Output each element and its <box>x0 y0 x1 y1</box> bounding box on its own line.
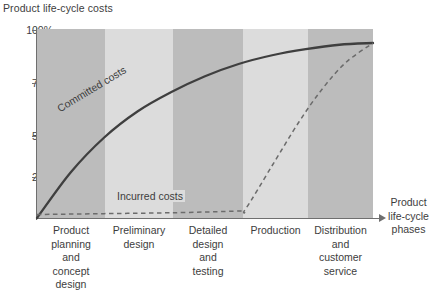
x-axis-line <box>36 218 381 219</box>
category-line: design <box>105 238 173 252</box>
category-line: Distribution <box>308 224 373 238</box>
incurred-costs-label: Incurred costs <box>115 190 185 202</box>
category-line: Preliminary <box>105 224 173 238</box>
x-axis-label-line-2: life-cycle <box>385 210 432 224</box>
category-label-detailed-design: Detailed design and testing <box>173 224 243 278</box>
y-axis-line <box>36 27 37 220</box>
category-line: testing <box>173 265 243 279</box>
category-label-product-planning: Product planning and concept design <box>37 224 105 292</box>
category-line: and <box>37 251 105 265</box>
category-line: Detailed <box>173 224 243 238</box>
plot-area <box>37 29 373 218</box>
category-line: and <box>308 238 373 252</box>
x-axis-label-line-3: phases <box>385 223 432 237</box>
category-label-distribution: Distribution and customer service <box>308 224 373 278</box>
category-line: customer <box>308 251 373 265</box>
category-line: design <box>173 238 243 252</box>
category-line: Product <box>37 224 105 238</box>
category-line: concept <box>37 265 105 279</box>
category-line: and <box>173 251 243 265</box>
phase-band-5 <box>308 29 373 218</box>
phase-band-4 <box>243 29 308 218</box>
category-line: planning <box>37 238 105 252</box>
category-line: design <box>37 278 105 292</box>
category-label-production: Production <box>243 224 308 238</box>
phase-band-1 <box>37 29 105 218</box>
x-category-labels: Product planning and concept design Prel… <box>37 224 373 292</box>
category-label-preliminary-design: Preliminary design <box>105 224 173 251</box>
x-axis-label-line-1: Product <box>385 196 432 210</box>
chart-title: Product life-cycle costs <box>3 2 113 14</box>
category-line: Production <box>243 224 308 238</box>
category-line: service <box>308 265 373 279</box>
x-axis-label: Product life-cycle phases <box>385 196 432 237</box>
